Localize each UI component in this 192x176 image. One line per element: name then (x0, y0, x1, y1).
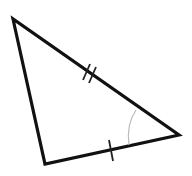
angle-arc (128, 110, 136, 145)
triangle-diagram (0, 0, 192, 176)
triangle (13, 19, 179, 164)
